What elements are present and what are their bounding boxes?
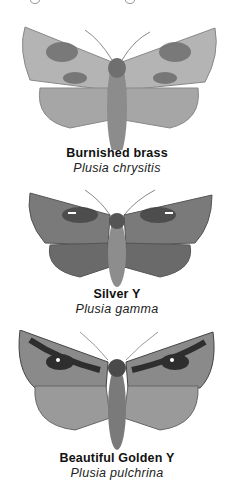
common-name-label: Beautiful Golden Y xyxy=(0,451,234,465)
latin-name-label: Plusia chrysitis xyxy=(0,161,234,175)
burnished-brass-moth-illustration xyxy=(0,20,234,150)
common-name-label: Burnished brass xyxy=(0,146,234,160)
latin-name-label: Plusia gamma xyxy=(0,302,234,316)
cropped-glyph-fragment xyxy=(125,0,135,4)
cropped-glyph-fragment xyxy=(30,0,40,4)
common-name-label: Silver Y xyxy=(0,287,234,301)
latin-name-label: Plusia pulchrina xyxy=(0,466,234,480)
silver-y-moth-illustration xyxy=(0,185,234,290)
beautiful-golden-y-moth-illustration xyxy=(0,330,234,452)
